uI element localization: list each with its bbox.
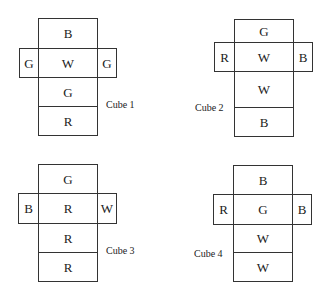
cube-2-label: Cube 2 <box>195 103 224 113</box>
cube-1-face-left: G <box>19 48 39 78</box>
cube-nets-diagram: B G W G G R Cube 1 G R W B W B Cube 2 G … <box>0 0 331 300</box>
cube-3-face-top: G <box>38 164 98 194</box>
cube-2-face-center: W <box>234 42 294 72</box>
cube-4-face-left: R <box>213 194 234 225</box>
cube-2-face-below: W <box>234 71 294 108</box>
cube-3-face-right: W <box>97 193 117 224</box>
cube-1-label: Cube 1 <box>106 100 135 110</box>
cube-3-face-left: B <box>18 193 39 224</box>
cube-2-face-left: R <box>214 42 235 72</box>
cube-4-face-below: W <box>233 224 293 253</box>
cube-1-face-top: B <box>38 18 98 49</box>
cube-1-face-below: G <box>38 77 98 107</box>
cube-2-face-right: B <box>293 42 313 72</box>
cube-3-face-below: R <box>38 223 98 253</box>
cube-4-face-right: B <box>292 194 312 225</box>
cube-3-face-center: R <box>38 193 98 224</box>
cube-2-face-top: G <box>234 19 294 43</box>
cube-4-face-top: B <box>233 165 293 195</box>
cube-1-face-bottom: R <box>38 106 98 136</box>
cube-4-label: Cube 4 <box>194 249 223 259</box>
cube-1-face-right: G <box>97 48 117 78</box>
cube-2-face-bottom: B <box>234 107 294 137</box>
cube-4-face-bottom: W <box>233 252 293 282</box>
cube-1-face-center: W <box>38 48 98 78</box>
cube-3-face-bottom: R <box>38 252 98 282</box>
cube-3-label: Cube 3 <box>106 246 135 256</box>
cube-4-face-center: G <box>233 194 293 225</box>
